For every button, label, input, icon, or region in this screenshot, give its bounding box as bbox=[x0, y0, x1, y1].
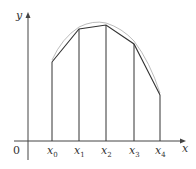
tick-label-x0: x0 bbox=[47, 145, 58, 159]
trapezoid-diagram bbox=[0, 0, 196, 169]
origin-label: 0 bbox=[13, 145, 20, 156]
tick-label-x4: x4 bbox=[155, 145, 166, 159]
x-axis-label: x bbox=[182, 143, 188, 154]
y-axis-arrow-icon bbox=[26, 12, 31, 18]
tick-label-x3: x3 bbox=[129, 145, 140, 159]
y-axis-label: y bbox=[16, 10, 22, 21]
tick-label-x1: x1 bbox=[74, 145, 85, 159]
tick-label-x2: x2 bbox=[101, 145, 112, 159]
